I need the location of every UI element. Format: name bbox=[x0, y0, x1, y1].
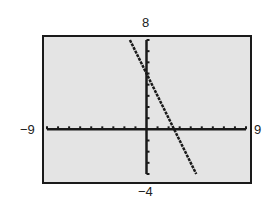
series-line bbox=[130, 40, 196, 174]
plot-area bbox=[0, 0, 262, 197]
